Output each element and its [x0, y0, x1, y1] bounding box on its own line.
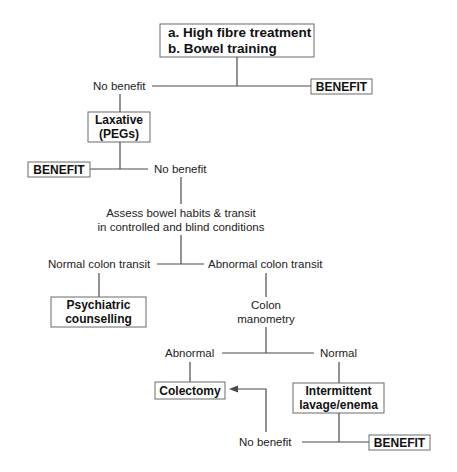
normal-colon-transit-label: Normal colon transit	[48, 258, 151, 270]
assess-line2: in controlled and blind conditions	[98, 221, 265, 233]
benefit-label-1: BENEFIT	[316, 80, 368, 94]
manometry-line1: Colon	[251, 299, 281, 311]
abnormal-label: Abnormal	[165, 347, 214, 359]
manometry-line2: manometry	[237, 313, 295, 325]
colectomy-label: Colectomy	[159, 384, 221, 398]
flowchart: a. High fibre treatment b. Bowel trainin…	[0, 0, 457, 472]
no-benefit-label-2: No benefit	[154, 163, 207, 175]
arrowhead-icon	[229, 386, 238, 393]
no-benefit-label-3: No benefit	[239, 436, 292, 448]
abnormal-colon-transit-label: Abnormal colon transit	[208, 258, 323, 270]
laxative-line2: (PEGs)	[99, 127, 139, 141]
start-line2: b. Bowel training	[168, 41, 277, 56]
benefit-label-3: BENEFIT	[374, 436, 426, 450]
psychiatric-line2: counselling	[65, 312, 132, 326]
start-line1: a. High fibre treatment	[168, 25, 312, 40]
arrow-to-colectomy	[236, 389, 266, 432]
lavage-line2: lavage/enema	[299, 398, 378, 412]
normal-label: Normal	[320, 347, 357, 359]
assess-line1: Assess bowel habits & transit	[106, 207, 256, 219]
no-benefit-label-1: No benefit	[93, 80, 146, 92]
benefit-label-2: BENEFIT	[33, 163, 85, 177]
psychiatric-line1: Psychiatric	[66, 298, 130, 312]
laxative-line1: Laxative	[95, 113, 143, 127]
lavage-line1: Intermittent	[306, 384, 372, 398]
